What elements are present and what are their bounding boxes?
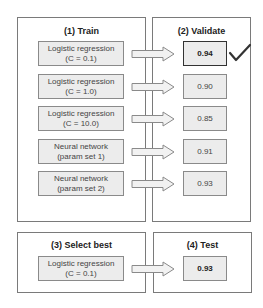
validation-score: 0.85 bbox=[197, 114, 213, 124]
train-model-box: Neural network (param set 2) bbox=[38, 171, 124, 196]
model-params: (param set 1) bbox=[57, 152, 105, 162]
model-params: (param set 2) bbox=[57, 184, 105, 194]
model-name: Logistic regression bbox=[48, 109, 115, 119]
right-arrow-icon bbox=[131, 144, 175, 160]
select-best-panel-title: (3) Select best bbox=[18, 240, 145, 250]
validation-score-box: 0.91 bbox=[183, 139, 227, 164]
right-arrow-icon bbox=[131, 111, 175, 127]
validation-score: 0.91 bbox=[197, 147, 213, 157]
right-arrow-icon bbox=[131, 46, 175, 62]
right-arrow-icon bbox=[131, 79, 175, 95]
model-name: Neural network bbox=[54, 174, 108, 184]
validation-score-box: 0.90 bbox=[183, 74, 227, 99]
train-model-box: Logistic regression (C = 1.0) bbox=[38, 74, 124, 99]
right-arrow-icon bbox=[131, 261, 175, 277]
model-params: (C = 0.1) bbox=[65, 54, 96, 64]
selected-model-box: Logistic regression (C = 0.1) bbox=[38, 256, 124, 281]
right-arrow-icon bbox=[131, 176, 175, 192]
model-name: Neural network bbox=[54, 142, 108, 152]
validation-score-box: 0.93 bbox=[183, 171, 227, 196]
test-score: 0.93 bbox=[197, 264, 213, 274]
train-model-box: Neural network (param set 1) bbox=[38, 139, 124, 164]
train-model-box: Logistic regression (C = 0.1) bbox=[38, 41, 124, 66]
model-params: (C = 1.0) bbox=[65, 87, 96, 97]
validation-score-box: 0.85 bbox=[183, 106, 227, 131]
validation-score: 0.93 bbox=[197, 179, 213, 189]
validation-score: 0.90 bbox=[197, 82, 213, 92]
validate-panel-title: (2) Validate bbox=[153, 26, 250, 36]
test-score-box: 0.93 bbox=[183, 256, 227, 281]
train-panel-title: (1) Train bbox=[18, 26, 145, 36]
checkmark-icon bbox=[228, 43, 252, 63]
model-name: Logistic regression bbox=[48, 44, 115, 54]
validation-score: 0.94 bbox=[197, 49, 213, 59]
test-panel-title: (4) Test bbox=[154, 240, 251, 250]
train-model-box: Logistic regression (C = 10.0) bbox=[38, 106, 124, 131]
selected-model-name: Logistic regression bbox=[48, 259, 115, 269]
model-params: (C = 10.0) bbox=[63, 119, 99, 129]
selected-model-params: (C = 0.1) bbox=[65, 269, 96, 279]
model-name: Logistic regression bbox=[48, 77, 115, 87]
validation-score-box-best: 0.94 bbox=[183, 41, 227, 66]
